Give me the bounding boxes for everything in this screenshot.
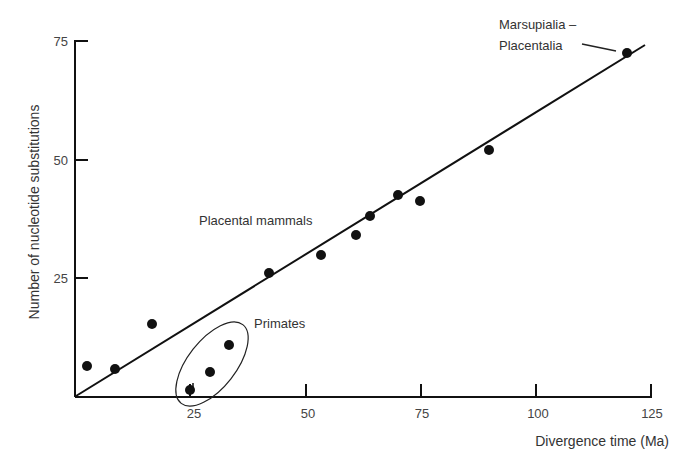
x-tick-label: 75: [415, 406, 429, 421]
annotation-leader-line: [582, 44, 616, 51]
y-tick-label: 25: [54, 271, 68, 286]
data-point: [82, 361, 92, 371]
scatter-chart: 75 50 25 25 50 75 100 125 Divergence tim…: [0, 0, 685, 468]
x-tick-label: 125: [641, 406, 663, 421]
data-point: [393, 190, 403, 200]
y-tick-label: 50: [54, 153, 68, 168]
x-axis-title: Divergence time (Ma): [535, 433, 669, 449]
data-point: [264, 268, 274, 278]
annotation-placental-mammals: Placental mammals: [199, 213, 313, 228]
data-point: [110, 364, 120, 374]
data-point: [224, 340, 234, 350]
x-tick-label: 50: [301, 406, 315, 421]
annotation-primates: Primates: [254, 316, 306, 331]
x-tick-label: 25: [187, 406, 201, 421]
y-axis-title: Number of nucleotide substitutions: [26, 105, 42, 320]
x-tick-label: 100: [527, 406, 549, 421]
trend-line: [76, 45, 645, 396]
y-tick-label: 75: [54, 34, 68, 49]
data-point: [316, 250, 326, 260]
data-point: [484, 145, 494, 155]
data-point: [147, 319, 157, 329]
primates-ellipse: [162, 310, 261, 418]
data-point: [415, 196, 425, 206]
data-point: [365, 211, 375, 221]
data-point: [351, 230, 361, 240]
data-point: [205, 367, 215, 377]
data-point: [622, 48, 632, 58]
annotation-placentalia: Placentalia: [499, 38, 563, 53]
data-point: [185, 385, 195, 395]
annotation-marsupialia: Marsupialia –: [499, 17, 577, 32]
